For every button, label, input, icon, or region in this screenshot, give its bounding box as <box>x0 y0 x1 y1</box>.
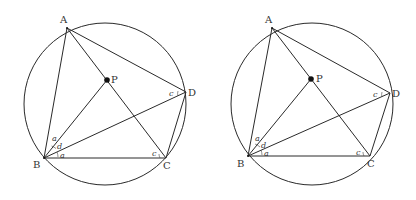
label-B: B <box>33 159 40 170</box>
angle-label-a: a <box>264 149 269 158</box>
point-A-marker <box>271 27 273 29</box>
point-P-marker <box>308 76 314 82</box>
segment-AD <box>67 28 186 92</box>
segment-CD <box>370 93 390 156</box>
label-A: A <box>59 14 68 25</box>
point-P-marker <box>104 77 110 83</box>
angle-arc-c-C <box>363 152 364 156</box>
angle-label-a: a <box>255 134 260 143</box>
segment-BP <box>248 79 311 156</box>
angle-arc-c-C <box>159 154 160 158</box>
angle-label-c: c <box>152 149 157 158</box>
angle-label-c: c <box>373 90 378 99</box>
segment-AD <box>272 28 390 93</box>
point-B-marker <box>43 157 45 159</box>
point-B-marker <box>247 155 249 157</box>
label-P: P <box>316 73 323 84</box>
figure-left: A P D B C a d a c c <box>24 14 196 185</box>
label-B: B <box>237 158 244 169</box>
segment-BP <box>44 80 107 158</box>
diagram-canvas: A P D B C a d a c c A P D B C a d a c c <box>0 0 416 200</box>
label-P: P <box>111 74 118 85</box>
angle-arc-a2 <box>261 150 262 155</box>
angle-arc-a2 <box>57 152 58 157</box>
circumcircle <box>24 23 186 185</box>
angle-label-a: a <box>60 151 65 160</box>
label-A: A <box>264 14 273 25</box>
angle-label-d: d <box>57 142 62 151</box>
segment-AC <box>67 28 166 158</box>
angle-label-c: c <box>169 89 174 98</box>
segment-BD <box>248 93 390 156</box>
label-C: C <box>367 158 375 169</box>
angle-label-c: c <box>356 148 361 157</box>
label-C: C <box>163 160 171 171</box>
segment-AC <box>272 28 370 156</box>
point-A-marker <box>66 27 68 29</box>
figure-right: A P D B C a d a c c <box>231 14 400 185</box>
segment-BD <box>44 92 186 158</box>
label-D: D <box>188 87 196 98</box>
label-D: D <box>392 88 400 99</box>
segment-AB <box>248 28 272 156</box>
